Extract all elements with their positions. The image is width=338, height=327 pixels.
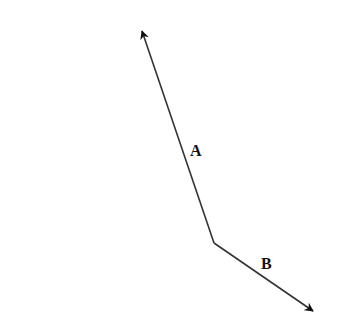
vector-a-line <box>142 31 214 243</box>
vector-b-label: B <box>261 255 272 272</box>
vector-a-label: A <box>190 142 202 159</box>
vector-b-line <box>214 243 313 311</box>
vector-diagram: A B <box>0 0 338 327</box>
